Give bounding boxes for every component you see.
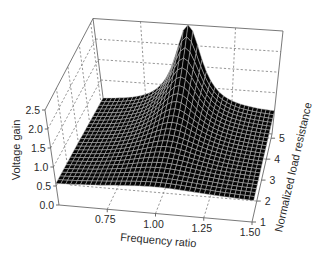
x-tick-label: 0.75 <box>95 213 116 225</box>
z-axis-voltage-gain: 0.00.51.01.52.02.5 <box>25 104 59 211</box>
y-tick-label: 4 <box>274 153 280 165</box>
y-tick-label: 5 <box>279 132 285 144</box>
y-tick-label: 2 <box>265 195 271 207</box>
y-tick-label: 1 <box>260 216 266 228</box>
z-tick-label: 2.0 <box>28 123 43 135</box>
y-tick-label: 3 <box>270 174 276 186</box>
x-tick-label: 1.50 <box>240 226 261 238</box>
box-edge <box>272 31 283 134</box>
z-tick-label: 1.5 <box>31 142 46 154</box>
surface-plot: 0.00.51.01.52.02.5 0.751.001.251.50 1234… <box>0 0 320 263</box>
z-tick-label: 0.5 <box>37 180 52 192</box>
z-tick-label: 0.0 <box>39 199 54 211</box>
y-axis-title: Normalized load resistance <box>272 101 314 233</box>
x-tick-label: 1.25 <box>192 222 213 234</box>
voltage-gain-surface <box>56 25 275 201</box>
box-edge <box>45 19 93 111</box>
z-tick-label: 1.0 <box>34 161 49 173</box>
x-axis-title: Frequency ratio <box>120 231 197 250</box>
z-axis-title: Voltage gain <box>10 120 22 181</box>
z-tick-label: 2.5 <box>25 104 40 116</box>
x-tick-label: 1.00 <box>143 218 164 230</box>
